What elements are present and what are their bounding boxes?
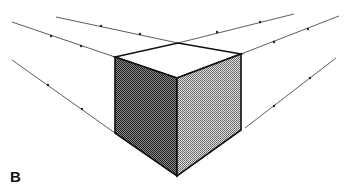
cube-left-face (115, 57, 177, 176)
cube-perspective-diagram (0, 0, 346, 192)
figure-label: B (10, 168, 21, 185)
